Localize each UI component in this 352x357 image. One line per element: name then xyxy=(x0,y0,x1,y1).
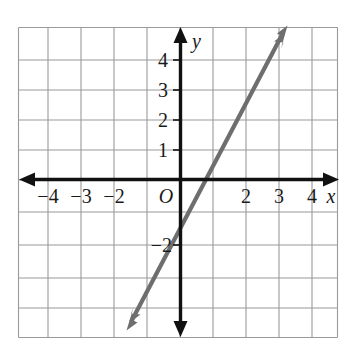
coordinate-plane-figure: 4 3 2 1 −2 −4 −3 −2 2 3 4 O y x xyxy=(0,0,352,357)
x-axis-label: x xyxy=(326,185,336,207)
y-axis-label: y xyxy=(190,30,201,53)
coordinate-plane-graph: 4 3 2 1 −2 −4 −3 −2 2 3 4 O y x xyxy=(0,0,352,357)
x-tick-label-2: 2 xyxy=(241,185,251,207)
y-tick-label-neg-2: −2 xyxy=(151,234,172,256)
y-tick-label-3: 3 xyxy=(158,79,168,101)
x-tick-label-neg-3: −3 xyxy=(70,185,91,207)
x-tick-label-neg-4: −4 xyxy=(37,185,58,207)
y-tick-label-4: 4 xyxy=(158,49,168,71)
y-tick-label-1: 1 xyxy=(158,139,168,161)
x-tick-label-neg-2: −2 xyxy=(103,185,124,207)
y-tick-label-2: 2 xyxy=(158,109,168,131)
x-tick-label-3: 3 xyxy=(274,185,284,207)
x-tick-label-4: 4 xyxy=(307,185,317,207)
origin-label: O xyxy=(159,185,173,207)
